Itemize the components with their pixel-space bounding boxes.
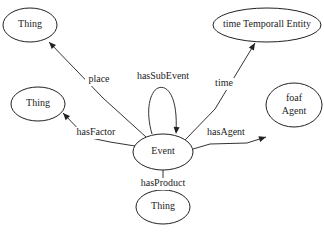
arrowhead-icon: [174, 127, 180, 134]
node-event[interactable]: Event: [133, 134, 193, 170]
arrowhead-icon: [258, 136, 266, 142]
node-foaf-agent[interactable]: foafAgent: [266, 83, 322, 127]
edge-label-place: place: [88, 73, 110, 84]
edge-label-time: time: [215, 77, 233, 88]
node-label: time Temporall Entity: [223, 18, 311, 29]
node-thing-place[interactable]: Thing: [3, 8, 57, 42]
edge-label-hasSubEvent: hasSubEvent: [137, 70, 189, 81]
edge-line: [49, 42, 146, 137]
node-thing-factor[interactable]: Thing: [11, 87, 65, 121]
nodes-layer: EventThingtime Temporall EntityThingfoaf…: [3, 8, 322, 224]
node-label: Thing: [18, 18, 42, 29]
edge-hasSubEvent: [149, 87, 180, 134]
arrowhead-icon: [249, 43, 255, 51]
edge-place: [49, 42, 146, 137]
node-label: Thing: [151, 200, 175, 211]
edge-labels-layer: placehasSubEventtimehasFactorhasAgenthas…: [72, 70, 248, 190]
node-label: foaf: [286, 92, 303, 103]
edge-label-hasProduct: hasProduct: [141, 177, 186, 188]
edge-label-hasAgent: hasAgent: [207, 126, 245, 137]
edge-line: [149, 87, 177, 134]
node-thing-product[interactable]: Thing: [136, 190, 190, 224]
node-label: Thing: [26, 97, 50, 108]
node-label: Agent: [282, 105, 307, 116]
node-time-entity[interactable]: time Temporall Entity: [213, 8, 321, 42]
edge-label-hasFactor: hasFactor: [77, 126, 117, 137]
node-label: Event: [151, 145, 175, 156]
ontology-diagram: EventThingtime Temporall EntityThingfoaf…: [0, 0, 324, 238]
